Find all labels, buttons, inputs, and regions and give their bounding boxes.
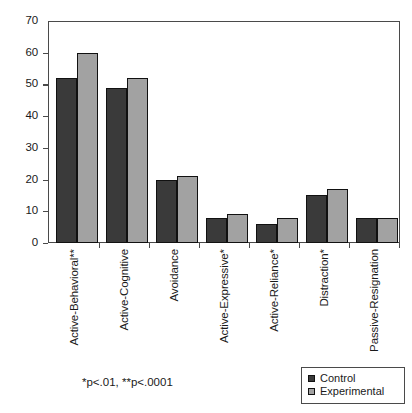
y-tick-label: 30 bbox=[26, 142, 38, 154]
bar-experimental bbox=[227, 214, 248, 243]
x-category-label: Avoidance bbox=[169, 249, 181, 304]
legend-swatch-experimental-icon bbox=[308, 388, 315, 395]
x-tick-mark bbox=[199, 243, 200, 248]
bar-experimental bbox=[327, 189, 348, 243]
x-tick-mark bbox=[349, 243, 350, 248]
y-tick-mark bbox=[43, 243, 48, 244]
bar-experimental bbox=[177, 176, 198, 243]
x-category-label: Active-Expressive* bbox=[219, 249, 231, 345]
x-category-label-text: Avoidance bbox=[169, 249, 181, 304]
bar-group bbox=[306, 21, 348, 243]
x-category-label-text: Active-Expressive* bbox=[219, 249, 231, 345]
x-axis-labels: Active-Behavioral**Active-CognitiveAvoid… bbox=[49, 249, 401, 374]
x-category-label-text: Active-Behavioral** bbox=[69, 249, 81, 348]
y-tick-label: 0 bbox=[32, 237, 38, 249]
chart-legend: Control Experimental bbox=[301, 367, 405, 404]
x-category-label: Active-Cognitive bbox=[119, 249, 131, 333]
y-tick-label: 10 bbox=[26, 205, 38, 217]
bar-group bbox=[106, 21, 148, 243]
legend-item-experimental: Experimental bbox=[308, 385, 398, 398]
bar-group bbox=[356, 21, 398, 243]
y-tick-label: 70 bbox=[26, 15, 38, 27]
bar-experimental bbox=[127, 78, 148, 243]
x-category-label-text: Distraction* bbox=[319, 249, 331, 309]
x-category-label: Distraction* bbox=[319, 249, 331, 309]
bar-control bbox=[256, 224, 277, 243]
bar-control bbox=[206, 218, 227, 243]
bar-control bbox=[306, 195, 327, 243]
x-tick-mark bbox=[99, 243, 100, 248]
y-axis: 706050403020100 bbox=[0, 0, 48, 265]
x-category-label: Active-Reliance* bbox=[269, 249, 281, 334]
y-tick-label: 40 bbox=[26, 110, 38, 122]
bar-control bbox=[156, 180, 177, 243]
bar-experimental bbox=[277, 218, 298, 243]
x-category-label: Active-Behavioral** bbox=[69, 249, 81, 348]
bar-group bbox=[206, 21, 248, 243]
bar-group bbox=[156, 21, 198, 243]
x-category-label-text: Active-Cognitive bbox=[119, 249, 131, 333]
y-tick-label: 60 bbox=[26, 47, 38, 59]
bars-layer bbox=[49, 21, 399, 243]
bar-experimental bbox=[377, 218, 398, 243]
bar-control bbox=[356, 218, 377, 243]
bar-chart: 706050403020100 Active-Behavioral**Activ… bbox=[0, 0, 412, 413]
x-tick-mark bbox=[149, 243, 150, 248]
bar-group bbox=[256, 21, 298, 243]
x-tick-mark bbox=[399, 243, 400, 248]
x-tick-mark bbox=[249, 243, 250, 248]
significance-footnote: *p<.01, **p<.0001 bbox=[82, 376, 173, 388]
y-tick-label: 50 bbox=[26, 78, 38, 90]
legend-label-experimental: Experimental bbox=[320, 386, 384, 397]
legend-label-control: Control bbox=[320, 373, 355, 384]
x-category-label-text: Active-Reliance* bbox=[269, 249, 281, 334]
legend-item-control: Control bbox=[308, 372, 398, 385]
x-category-label: Passive-Resignation bbox=[369, 249, 381, 354]
x-category-label-text: Passive-Resignation bbox=[369, 249, 381, 354]
bar-group bbox=[56, 21, 98, 243]
legend-swatch-control-icon bbox=[308, 375, 315, 382]
bar-control bbox=[56, 78, 77, 243]
y-tick-label: 20 bbox=[26, 174, 38, 186]
bar-experimental bbox=[77, 53, 98, 243]
x-tick-mark bbox=[299, 243, 300, 248]
bar-control bbox=[106, 88, 127, 243]
